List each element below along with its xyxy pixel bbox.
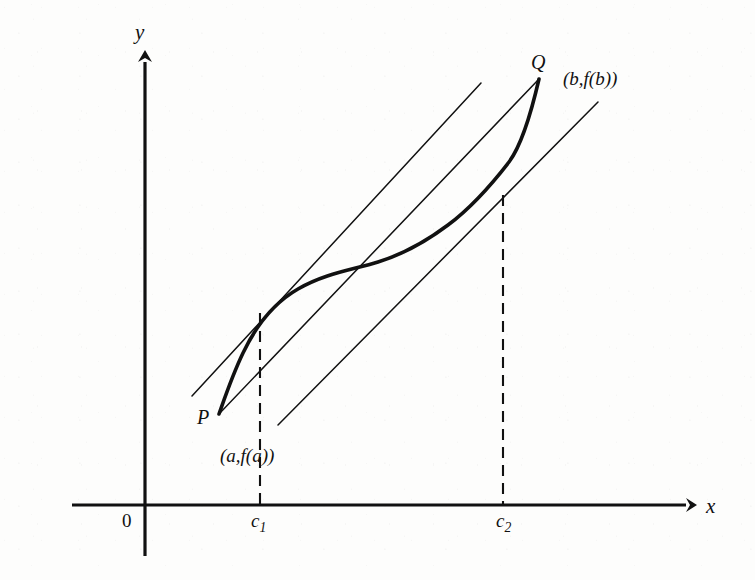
origin-label: 0	[122, 511, 132, 530]
x-axis-arrowhead	[686, 498, 697, 512]
point-label-p: P	[197, 407, 209, 427]
diagram-svg	[0, 0, 755, 580]
figure-canvas: y x 0 c1 c2 P Q (a,f(a)) (b,f(b))	[0, 0, 755, 580]
tick-label-c1: c1	[251, 511, 266, 534]
y-axis-arrowhead	[138, 50, 152, 62]
point-coord-label-a: (a,f(a))	[220, 446, 274, 465]
tangent-line-c2	[278, 102, 598, 425]
y-axis-group	[138, 50, 152, 556]
point-coord-label-b: (b,f(b))	[563, 69, 617, 88]
tick-label-c2-subscript: 2	[504, 520, 511, 535]
y-axis-label: y	[135, 22, 144, 43]
point-label-q: Q	[531, 52, 545, 72]
tangent-line-c1	[192, 83, 481, 396]
tick-label-c1-subscript: 1	[259, 520, 266, 535]
x-axis-label: x	[706, 496, 715, 517]
secant-line-pq	[219, 79, 539, 414]
x-axis-group	[72, 498, 697, 512]
tick-label-c2: c2	[496, 511, 511, 534]
